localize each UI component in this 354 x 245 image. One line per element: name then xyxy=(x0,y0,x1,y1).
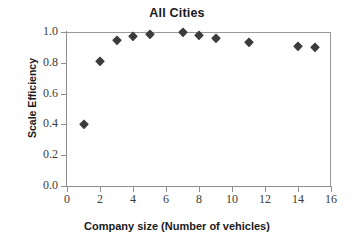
data-point-marker xyxy=(293,41,302,50)
y-axis-title: Scale Efficiency xyxy=(26,18,38,178)
x-tick-label: 6 xyxy=(151,192,181,207)
data-point-marker xyxy=(79,120,88,129)
data-point-marker xyxy=(310,43,319,52)
x-tick-label: 12 xyxy=(250,192,280,207)
y-tick-label: 0.2 xyxy=(18,147,58,162)
y-tick-mark xyxy=(61,124,67,125)
y-tick-mark xyxy=(61,32,67,33)
plot-right-border xyxy=(330,32,331,186)
y-tick-label: 1.0 xyxy=(18,24,58,39)
data-point-marker xyxy=(244,37,253,46)
y-tick-mark xyxy=(61,155,67,156)
data-point-marker xyxy=(95,57,104,66)
data-point-marker xyxy=(211,33,220,42)
page-title: All Cities xyxy=(0,6,354,20)
data-point-marker xyxy=(112,35,121,44)
y-tick-label: 0.4 xyxy=(18,116,58,131)
y-tick-mark xyxy=(61,63,67,64)
x-tick-label: 0 xyxy=(52,192,82,207)
y-tick-label: 0.6 xyxy=(18,86,58,101)
plot-area xyxy=(67,32,331,186)
x-tick-label: 14 xyxy=(283,192,313,207)
x-axis-title: Company size (Number of vehicles) xyxy=(0,220,354,232)
y-tick-label: 0.0 xyxy=(18,178,58,193)
x-tick-label: 4 xyxy=(118,192,148,207)
x-tick-label: 8 xyxy=(184,192,214,207)
x-tick-label: 16 xyxy=(316,192,346,207)
data-point-marker xyxy=(178,27,187,36)
chart-screenshot: All Cities 0.00.20.40.60.81.0 0246810121… xyxy=(0,0,354,245)
x-tick-label: 2 xyxy=(85,192,115,207)
x-tick-label: 10 xyxy=(217,192,247,207)
y-tick-mark xyxy=(61,94,67,95)
y-tick-label: 0.8 xyxy=(18,55,58,70)
